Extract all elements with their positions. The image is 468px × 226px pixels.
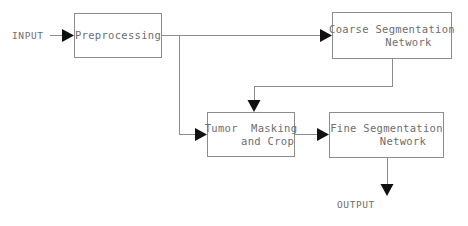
edge-tumor-masking-to-fine	[295, 128, 329, 141]
node-tumor-masking-and-crop-label: Tumor Masking and Crop	[205, 122, 298, 148]
edge-fine-to-output	[381, 158, 394, 196]
node-preprocessing-label: Preprocessing	[75, 29, 161, 42]
node-fine-segmentation-network[interactable]: Fine Segmentation Network	[329, 112, 444, 158]
arrowhead-icon	[248, 100, 261, 112]
node-coarse-segmentation-network[interactable]: Coarse Segmentation Network	[332, 12, 452, 59]
arrowhead-icon	[381, 184, 394, 196]
node-preprocessing[interactable]: Preprocessing	[74, 13, 162, 58]
arrowhead-icon	[62, 29, 74, 42]
node-coarse-segmentation-network-label: Coarse Segmentation Network	[329, 23, 455, 49]
input-label: INPUT	[12, 30, 44, 42]
arrowhead-icon	[317, 128, 329, 141]
edge-coarse-to-tumor-masking	[248, 59, 393, 112]
edge-input-to-preprocessing	[50, 29, 74, 42]
node-fine-segmentation-network-label: Fine Segmentation Network	[330, 122, 443, 148]
flowchart-diagram: INPUT Preprocessing Coarse Segmentation …	[0, 0, 468, 226]
edge-preprocessing-to-tumor-masking	[179, 36, 207, 142]
output-label: OUTPUT	[337, 199, 375, 211]
edge-preprocessing-to-coarse	[162, 29, 332, 42]
node-tumor-masking-and-crop[interactable]: Tumor Masking and Crop	[207, 112, 295, 157]
